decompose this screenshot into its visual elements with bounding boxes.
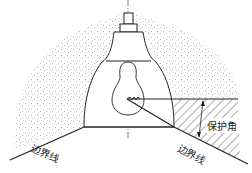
lamp-cap xyxy=(124,13,133,24)
lamp-collar xyxy=(120,24,137,32)
protection-angle-label: 保护角 xyxy=(206,118,238,133)
